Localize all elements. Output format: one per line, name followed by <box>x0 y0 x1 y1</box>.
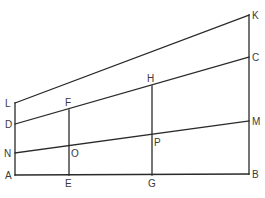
segment-NM <box>15 121 249 153</box>
label-K: K <box>252 10 259 21</box>
segment-AB <box>15 174 249 175</box>
label-B: B <box>252 169 259 180</box>
label-A: A <box>5 170 12 181</box>
segments-group <box>15 15 249 175</box>
label-E: E <box>65 178 72 189</box>
label-O: O <box>71 148 79 159</box>
segment-DC <box>15 57 249 124</box>
label-M: M <box>252 116 260 127</box>
label-C: C <box>252 52 259 63</box>
label-F: F <box>65 97 71 108</box>
label-L: L <box>5 98 11 109</box>
label-G: G <box>148 178 156 189</box>
geometric-diagram: L D N A F O E H P G K C M B <box>0 0 265 198</box>
label-D: D <box>5 119 12 130</box>
labels-group: L D N A F O E H P G K C M B <box>4 10 260 189</box>
label-N: N <box>4 148 11 159</box>
label-H: H <box>147 73 154 84</box>
segment-LK <box>15 15 249 103</box>
label-P: P <box>154 137 161 148</box>
